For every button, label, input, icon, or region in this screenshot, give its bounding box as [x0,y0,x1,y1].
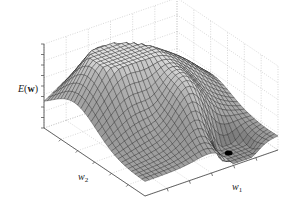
global-minimum-marker [225,151,233,156]
y-axis-label: w2 [78,172,88,184]
surface-mesh [44,42,278,181]
x-label-sub: 1 [239,186,243,194]
z-axis-label: E(w) [18,84,38,94]
z-label-arg: w [27,83,34,94]
error-surface-plot [0,0,293,207]
y-label-sub: 2 [85,176,89,184]
x-axis-label: w1 [232,182,242,194]
z-label-func: E [18,83,24,94]
x-label-sym: w [232,181,239,192]
y-label-sym: w [78,171,85,182]
